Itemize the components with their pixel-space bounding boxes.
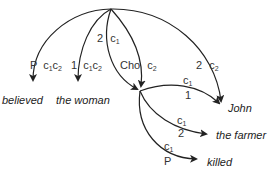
edge-label-woman: 1 c1c2 — [71, 60, 102, 72]
word-john: John — [228, 103, 252, 114]
edge-label-john-mid-rel: 1 — [185, 90, 191, 101]
edge-label-john-root: 2 c2 — [196, 60, 219, 72]
edge-label-believed: P c1c2 — [30, 60, 62, 72]
arc-root-mid-a — [107, 9, 137, 89]
arc-root-mid-b — [111, 9, 142, 86]
edge-label-john-mid-tag: c1 — [183, 75, 192, 87]
edge-label-mid-a: 2 c1 — [97, 33, 120, 45]
arc-mid-john — [140, 85, 219, 103]
word-killed: killed — [207, 157, 232, 168]
edge-label-killed-rel: P — [164, 156, 171, 167]
word-the-farmer: the farmer — [216, 130, 266, 141]
diagram-arcs — [0, 0, 279, 182]
word-the-woman: the woman — [56, 95, 110, 106]
edge-label-farmer-tag: c1 — [177, 115, 186, 127]
edge-label-killed-tag: c1 — [164, 141, 173, 153]
edge-label-farmer-rel: 2 — [178, 128, 184, 139]
arc-mid-farmer — [140, 91, 206, 134]
dependency-diagram: P c1c2 1 c1c2 2 c1 Cho c2 2 c2 c1 1 c1 2… — [0, 0, 279, 182]
edge-label-mid-b: Cho c2 — [120, 60, 157, 72]
word-believed: believed — [2, 95, 43, 106]
arc-root-john — [111, 9, 221, 101]
